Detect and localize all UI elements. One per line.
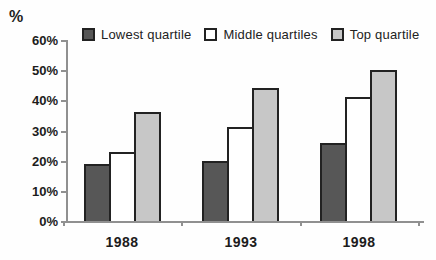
y-tick-label: 40% <box>6 93 58 108</box>
y-tick-mark <box>61 40 66 42</box>
legend-item-top-quartile: Top quartile <box>331 27 420 42</box>
bar-middle-quartiles-1988 <box>109 152 136 221</box>
y-tick-label: 60% <box>6 33 58 48</box>
x-axis-line <box>61 221 424 223</box>
x-category-label-1988: 1988 <box>77 234 167 250</box>
legend-label: Lowest quartile <box>101 27 191 42</box>
y-tick-mark <box>61 191 66 193</box>
y-tick-label: 50% <box>6 63 58 78</box>
x-tick-mark <box>63 221 65 226</box>
y-axis-line <box>66 40 68 221</box>
y-tick-mark <box>61 131 66 133</box>
legend-swatch-middle-quartiles <box>204 28 217 41</box>
x-tick-mark <box>181 221 183 226</box>
bar-middle-quartiles-1998 <box>345 97 372 221</box>
bar-top-quartile-1988 <box>134 112 161 221</box>
x-category-label-1993: 1993 <box>196 234 286 250</box>
legend-item-lowest-quartile: Lowest quartile <box>82 27 191 42</box>
y-tick-label: 10% <box>6 184 58 199</box>
legend-label: Middle quartiles <box>223 27 317 42</box>
bar-top-quartile-1993 <box>252 88 279 221</box>
y-tick-mark <box>61 100 66 102</box>
legend-swatch-top-quartile <box>331 28 344 41</box>
y-tick-label: 30% <box>6 124 58 139</box>
y-axis-unit-label: % <box>9 8 23 26</box>
legend: Lowest quartileMiddle quartilesTop quart… <box>82 27 432 42</box>
bar-top-quartile-1998 <box>370 70 397 221</box>
y-tick-mark <box>61 70 66 72</box>
quartile-bar-chart: % Lowest quartileMiddle quartilesTop qua… <box>0 0 436 260</box>
y-tick-label: 20% <box>6 154 58 169</box>
y-tick-label: 0% <box>6 214 58 229</box>
bar-lowest-quartile-1998 <box>320 143 347 221</box>
legend-label: Top quartile <box>350 27 420 42</box>
bar-lowest-quartile-1988 <box>84 164 111 221</box>
x-tick-mark <box>418 221 420 226</box>
legend-swatch-lowest-quartile <box>82 28 95 41</box>
legend-item-middle-quartiles: Middle quartiles <box>204 27 317 42</box>
bar-middle-quartiles-1993 <box>227 127 254 221</box>
x-tick-mark <box>300 221 302 226</box>
bar-lowest-quartile-1993 <box>202 161 229 221</box>
y-tick-mark <box>61 161 66 163</box>
x-category-label-1998: 1998 <box>314 234 404 250</box>
